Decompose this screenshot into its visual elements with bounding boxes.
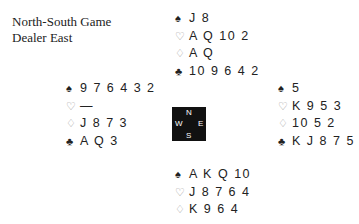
compass-north: N [186,108,192,117]
club-icon: ♣ [175,63,189,81]
club-icon: ♣ [278,133,292,151]
spade-icon: ♠ [175,10,189,28]
east-diamonds: ♢10 5 2 [278,115,355,133]
south-hand: ♠A K Q 10 ♡J 8 7 6 4 ♢K 9 6 4 ♣— [175,166,251,224]
south-clubs: ♣— [175,219,251,224]
compass-south: S [186,131,191,140]
spade-icon: ♠ [66,80,80,98]
club-icon: ♣ [66,133,80,151]
diamond-icon: ♢ [175,45,189,63]
diamond-icon: ♢ [175,201,189,219]
west-diamonds: ♢J 8 7 3 [66,115,156,133]
heart-icon: ♡ [175,184,189,202]
south-spades: ♠A K Q 10 [175,166,251,184]
south-diamonds: ♢K 9 6 4 [175,201,251,219]
north-hand: ♠J 8 ♡A Q 10 2 ♢A Q ♣10 9 6 4 2 [175,10,260,80]
diamond-icon: ♢ [66,115,80,133]
east-hand: ♠5 ♡K 9 5 3 ♢10 5 2 ♣K J 8 7 5 [278,80,355,150]
heart-icon: ♡ [66,98,80,116]
north-hearts: ♡A Q 10 2 [175,28,260,46]
north-clubs: ♣10 9 6 4 2 [175,63,260,81]
club-icon: ♣ [175,219,189,224]
east-clubs: ♣K J 8 7 5 [278,133,355,151]
compass-table: N W E S [172,107,206,141]
south-hearts: ♡J 8 7 6 4 [175,184,251,202]
spade-icon: ♠ [175,166,189,184]
east-spades: ♠5 [278,80,355,98]
dealer-label: Dealer East [12,30,111,46]
deal-info: North-South Game Dealer East [12,14,111,46]
north-spades: ♠J 8 [175,10,260,28]
west-hearts: ♡— [66,98,156,116]
vulnerability-label: North-South Game [12,14,111,30]
east-hearts: ♡K 9 5 3 [278,98,355,116]
diamond-icon: ♢ [278,115,292,133]
spade-icon: ♠ [278,80,292,98]
compass-east: E [198,119,203,128]
west-spades: ♠9 7 6 4 3 2 [66,80,156,98]
west-clubs: ♣A Q 3 [66,133,156,151]
north-diamonds: ♢A Q [175,45,260,63]
heart-icon: ♡ [278,98,292,116]
compass-west: W [175,119,183,128]
heart-icon: ♡ [175,28,189,46]
west-hand: ♠9 7 6 4 3 2 ♡— ♢J 8 7 3 ♣A Q 3 [66,80,156,150]
